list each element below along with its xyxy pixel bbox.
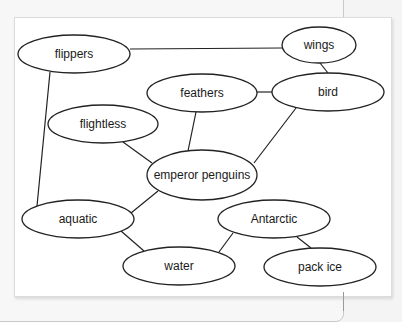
node-label: aquatic [59,212,98,226]
edge-aquatic-water [121,231,144,251]
node-water: water [123,247,235,285]
edge-feathers-emperor-penguins [188,112,196,151]
node-label: flippers [55,47,94,61]
node-label: Antarctic [251,212,298,226]
node-wings: wings [282,27,356,63]
node-flightless: flightless [48,105,158,143]
node-pack-ice: pack ice [264,248,376,286]
node-antarctic: Antarctic [218,200,330,238]
node-label: wings [303,38,335,52]
node-label: pack ice [298,260,342,274]
node-label: emperor penguins [154,168,251,182]
edge-antarctic-water [219,233,233,252]
edge-antarctic-pack-ice [297,237,311,248]
node-label: feathers [180,86,223,100]
edge-flippers-wings [130,48,282,49]
node-flippers: flippers [18,35,130,73]
nodes: flipperswingsfeathersbirdflightlessemper… [18,27,384,286]
node-bird: bird [272,73,384,111]
edge-emperor-penguins-aquatic [131,191,158,213]
node-label: water [163,259,193,273]
edge-flightless-emperor-penguins [123,142,152,163]
node-label: flightless [80,117,127,131]
edge-flippers-aquatic [37,72,50,206]
node-emperor-penguins: emperor penguins [147,150,257,200]
edge-wings-bird [320,63,328,73]
node-label: bird [318,85,338,99]
node-feathers: feathers [147,74,257,112]
edge-bird-emperor-penguins [254,108,296,163]
node-aquatic: aquatic [22,200,134,238]
